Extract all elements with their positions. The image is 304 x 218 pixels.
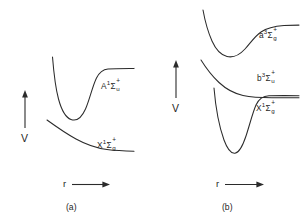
panel-caption-b: (b): [222, 203, 233, 212]
symmetry-subscript-g: g: [271, 108, 275, 114]
panel-b-group: [201, 10, 299, 153]
v-axis-label-a: V: [21, 133, 28, 144]
curve-label-X1Sigma-g-plus: X1Σ+gg: [97, 141, 117, 149]
arrow-right-icon-b: [256, 182, 264, 188]
sigma-affixes: +gg: [271, 104, 276, 112]
symmetry-subscript-u: u: [116, 86, 120, 92]
panel-b-v-axis: [173, 60, 179, 98]
curve-a-A1Sigma-u-plus: [53, 57, 135, 120]
panel-a-r-axis: [72, 182, 110, 188]
symmetry-subscript-g: g: [273, 35, 277, 41]
symmetry-subscript-g: g: [112, 145, 116, 151]
sigma-affixes: +uu: [116, 82, 121, 90]
curve-label-X1Sigma-g-plus-b: X1Σ+gg: [256, 104, 276, 112]
arrow-up-icon-b: [173, 60, 179, 68]
curve-label-a3Sigma-g-plus: a3Σ+gg: [259, 31, 278, 39]
sigma-affixes: +gg: [273, 31, 278, 39]
v-axis-label-b: V: [172, 103, 179, 114]
panel-a-v-axis: [22, 90, 28, 128]
curve-b-a3Sigma-g-plus: [203, 10, 299, 57]
parity-charge-plus: +: [116, 78, 120, 84]
parity-charge-plus: +: [271, 70, 275, 76]
panel-caption-a: (a): [66, 203, 77, 212]
r-axis-label-b: r: [216, 179, 219, 189]
curve-label-A1Sigma-u-plus: A1Σ+uu: [101, 82, 121, 90]
panel-a-group: [47, 57, 134, 151]
parity-charge-plus: +: [273, 27, 277, 33]
arrow-up-icon-a: [22, 90, 28, 98]
curve-a-X1Sigma-g-plus: [47, 120, 134, 151]
symmetry-subscript-u: u: [271, 78, 275, 84]
parity-charge-plus: +: [271, 100, 275, 106]
parity-charge-plus: +: [112, 137, 116, 143]
curve-label-b3Sigma-u-plus: b3Σ+uu: [257, 74, 276, 82]
sigma-affixes: +uu: [271, 74, 276, 82]
curve-b-b3Sigma-u-plus: [201, 60, 299, 98]
arrow-right-icon-a: [102, 182, 110, 188]
r-axis-label-a: r: [63, 179, 66, 189]
potential-energy-curves-figure: A1Σ+uu X1Σ+gg V r (a) a3Σ+gg b3Σ+uu X1Σ+…: [0, 0, 304, 218]
sigma-affixes: +gg: [112, 141, 117, 149]
panel-b-r-axis: [225, 182, 264, 188]
